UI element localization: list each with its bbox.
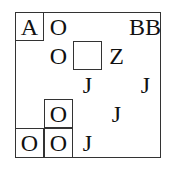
cell-r4c2: O	[44, 99, 73, 128]
cell-r5c2: O	[44, 128, 73, 158]
letter-grid: A O BB O Z J J O J O O J	[15, 12, 161, 158]
cell-r3c5: J	[131, 70, 160, 99]
cell-r1c1: A	[15, 12, 44, 41]
cell-r5c1: O	[15, 128, 44, 158]
cell-r3c3: J	[73, 70, 102, 99]
cell-r2c4: Z	[102, 41, 131, 70]
cell-r5c3: J	[73, 128, 102, 157]
cell-r1c2: O	[44, 12, 73, 41]
cell-r2c3-empty-box	[73, 41, 102, 70]
cell-r4c4: J	[102, 99, 131, 128]
cell-r1c5: BB	[128, 12, 162, 41]
cell-r2c2: O	[44, 41, 73, 70]
